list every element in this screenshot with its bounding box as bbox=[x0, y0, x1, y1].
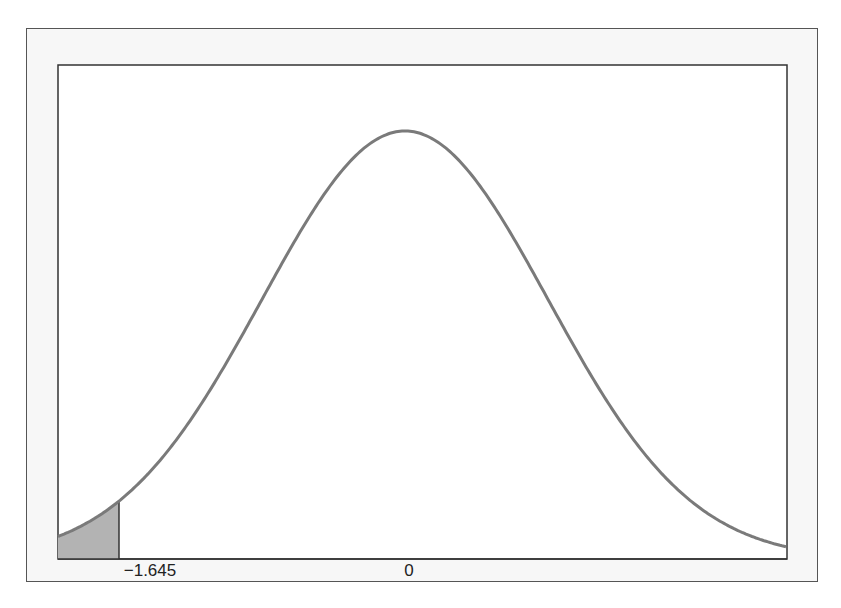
tick-label-mean: 0 bbox=[404, 561, 413, 581]
plot-area bbox=[58, 65, 787, 559]
normal-curve-chart bbox=[0, 0, 841, 608]
tick-label-critical-value: −1.645 bbox=[124, 561, 176, 581]
